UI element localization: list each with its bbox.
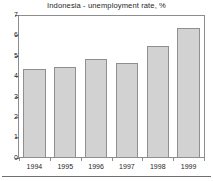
x-tick-mark bbox=[50, 158, 51, 161]
plot-area bbox=[19, 16, 204, 158]
y-tick-label-4: 4 bbox=[6, 72, 18, 79]
y-tick-label-2: 2 bbox=[6, 113, 18, 120]
bottom-rule bbox=[2, 176, 211, 177]
y-tick-label-7: 7 bbox=[6, 11, 18, 18]
bar-1996[interactable] bbox=[85, 59, 107, 158]
x-tick-mark bbox=[173, 158, 174, 161]
chart-title: Indonesia - unemployment rate, % bbox=[0, 1, 213, 10]
bar-1998[interactable] bbox=[147, 46, 169, 158]
y-axis: 7 6 5 4 3 2 1 0 bbox=[0, 0, 18, 181]
bar-1997[interactable] bbox=[116, 63, 138, 158]
x-tick-mark bbox=[112, 158, 113, 161]
x-tick-mark bbox=[81, 158, 82, 161]
x-tick-label-1998: 1998 bbox=[144, 163, 172, 171]
x-tick-mark bbox=[142, 158, 143, 161]
x-tick-label-1995: 1995 bbox=[51, 163, 79, 171]
y-tick-label-5: 5 bbox=[6, 52, 18, 59]
x-tick-label-1997: 1997 bbox=[113, 163, 141, 171]
y-tick-label-1: 1 bbox=[6, 133, 18, 140]
bar-1999[interactable] bbox=[177, 28, 199, 158]
x-tick-mark bbox=[204, 158, 205, 161]
y-tick-label-6: 6 bbox=[6, 31, 18, 38]
bar-1995[interactable] bbox=[54, 67, 76, 158]
x-axis: 1994 1995 1996 1997 1998 1999 bbox=[0, 160, 213, 174]
x-tick-mark bbox=[19, 158, 20, 161]
x-tick-label-1999: 1999 bbox=[175, 163, 203, 171]
y-tick-label-3: 3 bbox=[6, 93, 18, 100]
x-tick-label-1994: 1994 bbox=[20, 163, 48, 171]
bar-1994[interactable] bbox=[23, 69, 45, 158]
x-tick-label-1996: 1996 bbox=[82, 163, 110, 171]
chart-figure: Indonesia - unemployment rate, % 7 6 5 4… bbox=[0, 0, 213, 181]
